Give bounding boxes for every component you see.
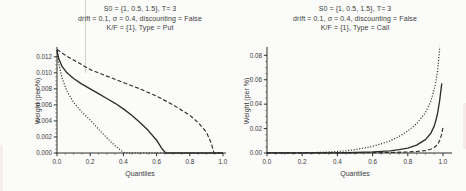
series-dashed-curve xyxy=(267,127,443,152)
series-dashed-curve xyxy=(57,50,223,153)
y-tick-label: 0.012 xyxy=(36,53,52,60)
x-tick-label: 0.6 xyxy=(152,158,161,165)
y-tick-label: 0.000 xyxy=(36,149,52,156)
x-tick-label: 0.0 xyxy=(53,158,62,165)
x-tick-label: 1.0 xyxy=(219,158,228,165)
x-tick-label: 0.4 xyxy=(119,158,128,165)
x-tick-label: 0.6 xyxy=(368,158,377,165)
x-tick-label: 0.4 xyxy=(333,158,342,165)
series-dotted-curve xyxy=(267,47,440,153)
y-tick-label: 0.06 xyxy=(250,76,263,83)
x-tick-label: 0.2 xyxy=(86,158,95,165)
y-tick-label: 0.010 xyxy=(36,69,52,76)
y-tick-label: 0.008 xyxy=(36,85,52,92)
y-tick-label: 0.002 xyxy=(36,133,52,140)
y-tick-label: 0.006 xyxy=(36,101,52,108)
series-solid-curve xyxy=(267,83,442,152)
x-tick-label: 0.8 xyxy=(185,158,194,165)
series-solid-curve xyxy=(57,50,223,153)
y-tick-label: 0.02 xyxy=(250,125,263,132)
figure-canvas: S0 = {1, 0.5, 1.5}, T= 3 drift = 0.1, σ … xyxy=(0,0,466,191)
x-tick-label: 0.8 xyxy=(403,158,412,165)
y-tick-label: 0.08 xyxy=(250,52,263,59)
plot-area-put: 0.00.20.40.60.81.00.0000.0020.0040.0060.… xyxy=(36,47,228,165)
y-tick-label: 0.04 xyxy=(250,100,263,107)
y-tick-label: 0.00 xyxy=(250,149,263,156)
x-tick-label: 0.2 xyxy=(298,158,307,165)
x-tick-label: 0.0 xyxy=(263,158,272,165)
x-tick-label: 1.0 xyxy=(439,158,448,165)
plot-area-call: 0.00.20.40.60.81.00.000.020.040.060.08 xyxy=(250,47,452,165)
quantile-weight-plots: 0.00.20.40.60.81.00.0000.0020.0040.0060.… xyxy=(0,0,466,191)
y-tick-label: 0.004 xyxy=(36,117,52,124)
